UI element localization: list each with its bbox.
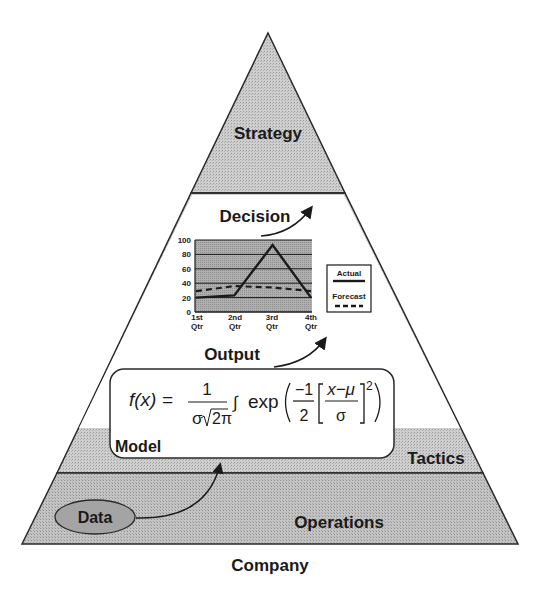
formula-inner-num: −1 xyxy=(295,381,313,398)
x-tick: 3rd xyxy=(266,313,279,322)
strategy-label: Strategy xyxy=(234,124,303,143)
model-label: Model xyxy=(115,438,161,455)
formula-sigma: σ xyxy=(192,409,203,428)
tactics-label: Tactics xyxy=(407,449,464,468)
formula-bracket-den: σ xyxy=(336,407,346,424)
operations-label: Operations xyxy=(294,513,384,532)
formula-bracket-num: x−μ xyxy=(326,380,355,399)
formula-root: 2π xyxy=(212,410,232,427)
legend-actual-label: Actual xyxy=(337,269,361,278)
x-tick: Qtr xyxy=(229,322,241,331)
y-tick: 80 xyxy=(182,250,191,259)
y-tick: 20 xyxy=(182,294,191,303)
y-tick: 100 xyxy=(178,236,192,245)
x-tick: 4th xyxy=(305,313,317,322)
formula-lhs: f(x) = xyxy=(129,389,173,410)
formula-inner-den: 2 xyxy=(300,407,309,424)
formula-frac-num: 1 xyxy=(202,380,211,399)
company-label: Company xyxy=(231,556,309,575)
strategy-band xyxy=(191,33,345,193)
x-tick: Qtr xyxy=(266,322,278,331)
legend-forecast-label: Forecast xyxy=(332,292,366,301)
x-tick: Qtr xyxy=(191,322,203,331)
formula-power: 2 xyxy=(366,379,373,393)
x-tick: 2nd xyxy=(228,313,242,322)
y-tick: 40 xyxy=(182,279,191,288)
data-label: Data xyxy=(78,509,113,526)
chart-legend: Actual Forecast xyxy=(327,265,371,312)
pyramid-diagram: Strategy Decision 100 80 60 40 20 0 1st … xyxy=(0,0,548,596)
x-tick: Qtr xyxy=(305,322,317,331)
formula-exp: exp xyxy=(248,391,279,412)
x-tick: 1st xyxy=(191,313,203,322)
output-label: Output xyxy=(204,345,260,364)
decision-label: Decision xyxy=(220,207,291,226)
y-tick: 60 xyxy=(182,265,191,274)
